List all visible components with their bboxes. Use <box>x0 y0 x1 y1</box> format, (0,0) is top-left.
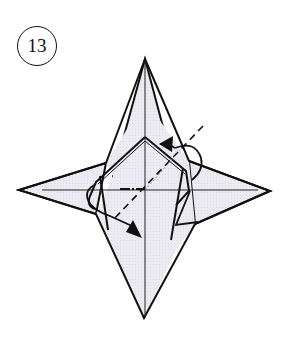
horizontal-kite-right <box>189 161 270 224</box>
origami-diagram <box>0 0 294 351</box>
